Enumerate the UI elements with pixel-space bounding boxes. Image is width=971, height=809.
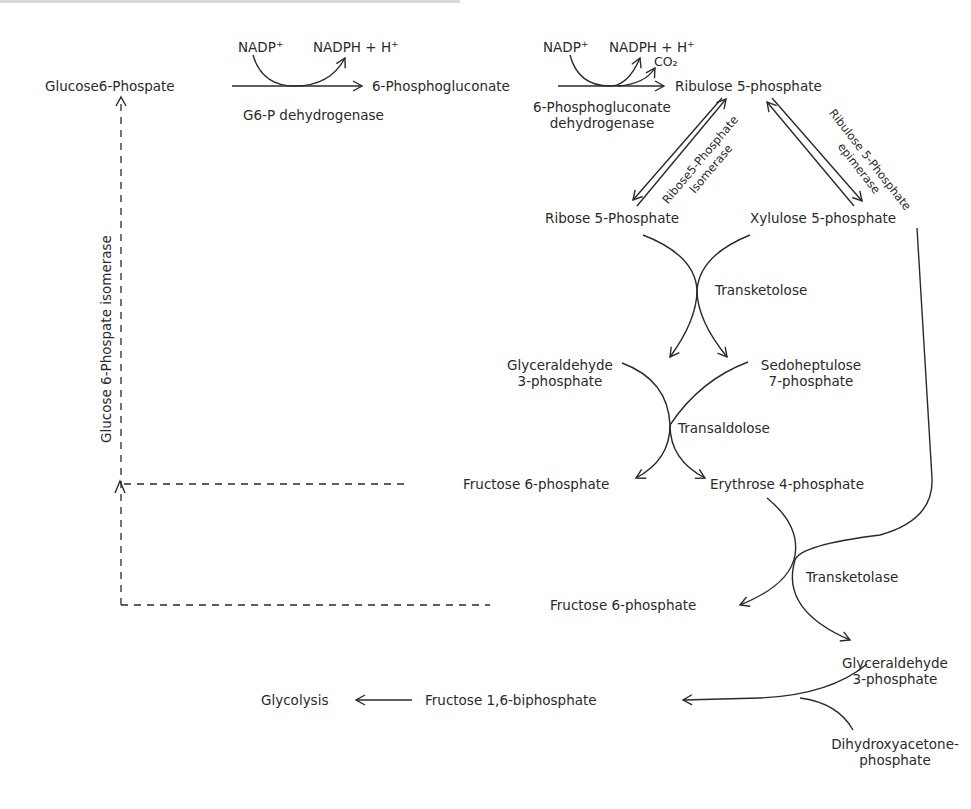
metabolite-glycolysis: Glycolysis [261, 692, 328, 708]
cofactor-arc-2a [570, 55, 640, 86]
metabolite-glucose-6-phosphate: Glucose6-Phospate [45, 78, 175, 94]
label-line: dehydrogenase [527, 115, 677, 131]
superscript: + [391, 39, 399, 49]
label-line: Glyceraldehyde [830, 655, 960, 671]
enzyme-transketolose: Transketolose [715, 282, 807, 298]
metabolite-fructose-6-phosphate-1: Fructose 6-phosphate [463, 476, 609, 492]
metabolite-xylulose-5-phosphate: Xylulose 5-phosphate [750, 210, 896, 226]
label-line: phosphate [825, 752, 965, 768]
cofactor-nadph-1: NADPH + H+ [313, 36, 399, 55]
label-line: 3-phosphate [830, 671, 960, 687]
label-line: 3-phosphate [500, 373, 620, 389]
cofactor-nadp-1: NADP+ [238, 36, 283, 55]
metabolite-ribulose-5-phosphate: Ribulose 5-phosphate [675, 78, 822, 94]
label-line: Dihydroxyacetone- [825, 736, 965, 752]
label-line: Glyceraldehyde [500, 357, 620, 373]
enzyme-6-phosphogluconate-dehydrogenase: 6-Phosphogluconate dehydrogenase [527, 99, 677, 131]
metabolite-dihydroxyacetone-phosphate: Dihydroxyacetone- phosphate [825, 736, 965, 768]
enzyme-glucose-6-phosphate-isomerase: Glucose 6-Phospate isomerase [98, 235, 114, 443]
text: NADPH + H [609, 39, 687, 55]
metabolite-fructose-1-6-biphosphate: Fructose 1,6-biphosphate [425, 692, 597, 708]
metabolite-glyceraldehyde-3-phosphate-1: Glyceraldehyde 3-phosphate [500, 357, 620, 389]
enzyme-g6p-dehydrogenase: G6-P dehydrogenase [243, 107, 384, 123]
label-line: Sedoheptulose [747, 357, 875, 373]
label-line: 7-phosphate [747, 373, 875, 389]
label-line: 6-Phosphogluconate [527, 99, 677, 115]
enzyme-transaldolose: Transaldolose [678, 420, 770, 436]
text: NADPH + H [313, 39, 391, 55]
metabolite-6-phosphogluconate: 6-Phosphogluconate [372, 78, 510, 94]
text: NADP [238, 39, 276, 55]
text: NADP [543, 39, 581, 55]
metabolite-sedoheptulose-7-phosphate: Sedoheptulose 7-phosphate [747, 357, 875, 389]
superscript: + [276, 39, 284, 49]
cofactor-arc-1 [253, 55, 345, 86]
superscript: + [687, 39, 695, 49]
metabolite-fructose-6-phosphate-2: Fructose 6-phosphate [550, 597, 696, 613]
metabolite-erythrose-4-phosphate: Erythrose 4-phosphate [710, 476, 864, 492]
superscript: + [581, 39, 589, 49]
cofactor-co2: CO₂ [654, 54, 678, 70]
cofactor-nadp-2: NADP+ [543, 36, 588, 55]
metabolite-ribose-5-phosphate: Ribose 5-Phosphate [545, 210, 679, 226]
enzyme-transketolase: Transketolase [806, 569, 898, 585]
metabolite-glyceraldehyde-3-phosphate-2: Glyceraldehyde 3-phosphate [830, 655, 960, 687]
cofactor-arc-co2 [618, 68, 655, 86]
cofactor-nadph-2: NADPH + H+ [609, 36, 695, 55]
